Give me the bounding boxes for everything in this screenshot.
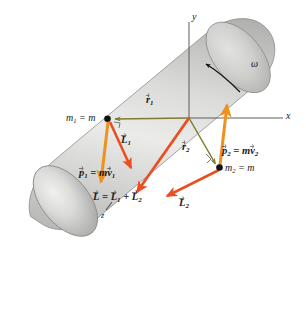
L-term2-subscript: 2 [138,196,141,203]
m2-subscript: 2 [232,167,235,174]
particle-2-dot [216,164,223,171]
m1-equation: = m [79,112,95,123]
L1-label: L1 [121,135,131,146]
p2-equation: = m [233,145,250,156]
L2-subscript: 2 [185,202,188,209]
v1-subscript: 1 [112,172,115,179]
y-axis-label: y [192,12,196,22]
r1-label: r1 [146,95,154,106]
m2-label: m2 = m [225,163,255,173]
p2-subscript: 2 [227,150,230,157]
v2-subscript: 2 [255,150,258,157]
r1-subscript: 1 [150,99,153,106]
m1-subscript: 1 [73,117,76,124]
physics-diagram [0,0,306,328]
L-total-symbol: L [93,192,99,203]
z-axis-label: z [101,211,104,220]
r2-label: r2 [182,142,190,153]
p1-equation: = m [90,167,107,178]
m2-equation: = m [238,162,254,173]
m1-label: m1 = m [66,113,96,123]
L2-vector [167,170,219,196]
p2-label: p2 = mv2 [222,146,258,157]
L-term1-subscript: 1 [117,196,120,203]
particle-1-dot [104,116,111,123]
rotating-cylinder [21,10,283,248]
x-axis-label: x [286,111,290,121]
L1-subscript: 1 [127,139,130,146]
p1-subscript: 1 [84,172,87,179]
p1-label: p1 = mv1 [79,168,115,179]
omega-label: ω [251,59,258,69]
r2-subscript: 2 [186,146,189,153]
L-total-label: L = L1 + L2 [93,192,142,203]
L2-label: L2 [179,198,189,209]
r1-vector [115,118,189,119]
